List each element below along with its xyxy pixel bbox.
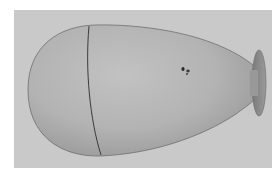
balloon-body bbox=[28, 25, 254, 156]
nozzle-neck bbox=[250, 70, 258, 96]
rendered-object bbox=[0, 0, 280, 181]
